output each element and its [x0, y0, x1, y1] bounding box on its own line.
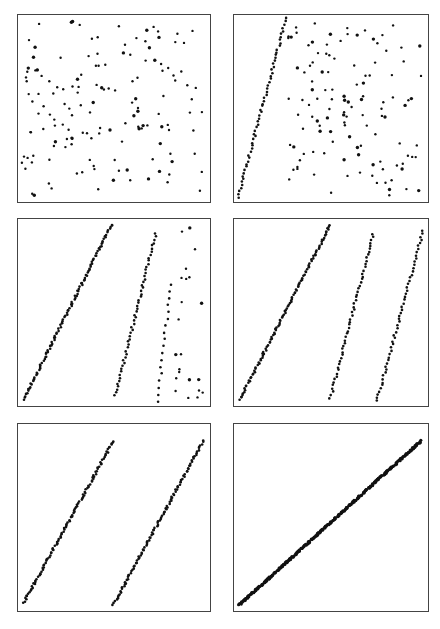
data-point [274, 56, 277, 59]
data-point [137, 299, 140, 302]
data-point [398, 315, 401, 318]
data-point [157, 394, 160, 397]
data-point [388, 356, 391, 359]
data-point [33, 46, 36, 49]
data-point [366, 124, 368, 126]
data-point [376, 42, 378, 44]
data-point [107, 229, 110, 232]
data-point [120, 367, 123, 370]
data-point [338, 363, 341, 366]
data-point [357, 495, 360, 498]
data-point [55, 332, 58, 335]
data-point [247, 161, 250, 164]
data-point [265, 94, 268, 97]
scatter-plot [234, 219, 428, 406]
data-point [201, 443, 204, 446]
data-point [181, 230, 183, 232]
data-point [99, 461, 102, 464]
data-point [303, 153, 305, 155]
data-point [243, 387, 246, 390]
data-point [78, 285, 81, 288]
data-point [287, 37, 289, 39]
data-point [178, 371, 180, 373]
data-point [112, 440, 115, 443]
data-point [400, 46, 402, 48]
data-point [130, 326, 133, 329]
data-point [263, 100, 266, 103]
data-point [364, 263, 367, 266]
data-point [118, 170, 120, 172]
data-point [112, 179, 115, 182]
data-point [415, 255, 418, 258]
scatter-plot [18, 219, 210, 406]
data-point [362, 114, 364, 116]
data-point [360, 145, 362, 147]
panel-bottom-left [17, 423, 211, 612]
data-point [158, 113, 160, 115]
data-point [124, 122, 126, 124]
data-point [270, 336, 273, 339]
data-point [129, 179, 131, 181]
data-point [21, 162, 23, 164]
data-point [54, 140, 57, 143]
data-point [192, 129, 194, 131]
data-point [26, 157, 28, 159]
data-point [313, 173, 315, 175]
data-point [142, 548, 145, 551]
data-point [376, 397, 379, 400]
data-point [174, 353, 177, 356]
data-point [345, 115, 347, 117]
data-point [369, 247, 372, 250]
data-point [121, 140, 123, 142]
data-point [278, 322, 281, 325]
data-point [388, 194, 390, 196]
data-point [415, 257, 418, 260]
data-point [77, 91, 79, 93]
data-point [179, 484, 182, 487]
data-point [183, 473, 186, 476]
data-point [80, 282, 83, 285]
data-point [316, 98, 318, 100]
data-point [329, 130, 332, 133]
data-point [342, 345, 345, 348]
data-point [122, 51, 125, 54]
data-point [411, 274, 414, 277]
data-point [279, 319, 282, 322]
data-point [157, 524, 160, 527]
data-point [242, 172, 245, 175]
data-point [353, 302, 356, 305]
data-point [410, 97, 413, 100]
data-point [124, 350, 127, 353]
data-point [124, 44, 126, 46]
data-point [347, 330, 350, 333]
data-point [400, 306, 403, 309]
data-point [136, 110, 139, 113]
data-point [188, 276, 190, 278]
data-point [133, 319, 136, 322]
data-point [413, 260, 416, 263]
data-point [198, 389, 200, 391]
data-point [157, 387, 160, 390]
data-point [160, 359, 163, 362]
data-point [421, 229, 424, 232]
data-point [48, 182, 50, 184]
data-point [279, 42, 282, 45]
data-point [36, 69, 38, 71]
data-point [284, 20, 287, 23]
data-point [417, 248, 420, 251]
data-point [76, 78, 79, 81]
data-point [108, 446, 111, 449]
data-point [80, 74, 82, 76]
data-point [147, 257, 150, 260]
data-point [290, 555, 293, 558]
scatter-plot [234, 15, 428, 202]
data-point [185, 268, 187, 270]
data-point [126, 168, 129, 171]
data-point [333, 57, 335, 59]
data-point [160, 372, 163, 375]
data-point [408, 280, 411, 283]
data-point [241, 175, 244, 178]
data-point [400, 312, 403, 315]
data-point [117, 385, 120, 388]
data-point [31, 585, 34, 588]
